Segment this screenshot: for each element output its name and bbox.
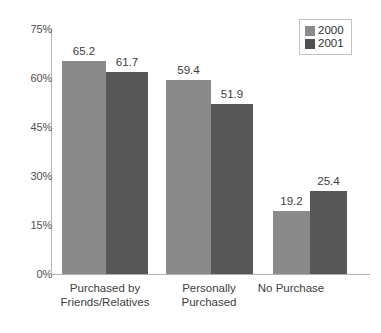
bar-value-label: 51.9 <box>221 88 243 100</box>
legend-label-2000: 2000 <box>318 24 344 37</box>
category-label: PersonallyPurchased <box>182 281 237 309</box>
bar <box>166 80 211 274</box>
category-label: Purchased byFriends/Relatives <box>61 281 150 309</box>
bar-value-label: 59.4 <box>177 64 199 76</box>
legend-item-2000: 2000 <box>305 24 344 37</box>
bar-chart: 0%15%30%45%60%75% 65.261.759.451.919.225… <box>0 0 381 333</box>
category-label-line: Friends/Relatives <box>61 295 150 309</box>
category-label-line: Purchased by <box>61 281 150 295</box>
bar-value-label: 25.4 <box>317 175 339 187</box>
bar-value-label: 19.2 <box>280 195 302 207</box>
bar <box>211 104 253 274</box>
category-label-line: No Purchase <box>258 281 324 295</box>
bar <box>62 61 106 274</box>
legend-item-2001: 2001 <box>305 37 344 50</box>
legend-swatch-icon-2001 <box>305 39 315 49</box>
bar-value-label: 65.2 <box>73 45 95 57</box>
x-axis-line <box>51 274 370 275</box>
plot-area <box>52 29 370 274</box>
category-label-line: Purchased <box>182 295 237 309</box>
category-label-line: Personally <box>182 281 237 295</box>
legend: 2000 2001 <box>299 19 352 55</box>
bar <box>273 211 310 274</box>
bar <box>310 191 347 274</box>
bar <box>106 72 148 274</box>
category-label: No Purchase <box>258 281 324 295</box>
legend-swatch-icon-2000 <box>305 26 315 36</box>
legend-label-2001: 2001 <box>318 37 344 50</box>
bar-value-label: 61.7 <box>116 56 138 68</box>
